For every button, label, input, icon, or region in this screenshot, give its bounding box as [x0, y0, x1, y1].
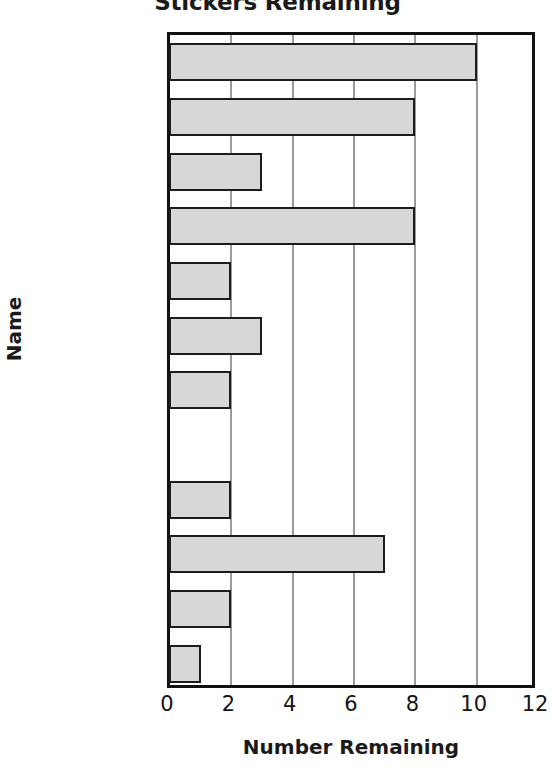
bar-amy[interactable] — [169, 317, 262, 355]
bar-chart: Stickers Remaining Name AnaAngelaAndyAnd… — [0, 0, 555, 772]
bars-layer — [170, 35, 532, 685]
bar-row — [170, 527, 532, 582]
bar-row — [170, 582, 532, 637]
bar-row — [170, 35, 532, 90]
x-tick-label-2: 2 — [198, 692, 258, 716]
x-tick-label-8: 8 — [382, 692, 442, 716]
bar-row — [170, 90, 532, 145]
bar-row — [170, 472, 532, 527]
bar-adam[interactable] — [169, 590, 231, 628]
x-tick-label-12: 12 — [505, 692, 555, 716]
bar-angela[interactable] — [169, 98, 415, 136]
bar-row — [170, 254, 532, 309]
bar-aaron[interactable] — [169, 645, 201, 683]
bar-row — [170, 363, 532, 418]
x-tick-label-0: 0 — [137, 692, 197, 716]
y-axis-title: Name — [2, 289, 26, 369]
bar-amber[interactable] — [169, 371, 231, 409]
x-tick-label-10: 10 — [444, 692, 504, 716]
x-tick-label-6: 6 — [321, 692, 381, 716]
bar-alicia[interactable] — [169, 535, 385, 573]
bar-row — [170, 308, 532, 363]
plot-area — [167, 32, 535, 688]
bar-allison[interactable] — [169, 481, 231, 519]
chart-title: Stickers Remaining — [0, 0, 555, 15]
bar-andrew[interactable] — [169, 207, 415, 245]
x-axis-title: Number Remaining — [167, 735, 535, 759]
x-tick-label-4: 4 — [260, 692, 320, 716]
bar-andrea[interactable] — [169, 262, 231, 300]
bar-row — [170, 636, 532, 691]
bar-ana[interactable] — [169, 43, 477, 81]
bar-row — [170, 199, 532, 254]
bar-row — [170, 144, 532, 199]
bar-andy[interactable] — [169, 153, 262, 191]
bar-row — [170, 418, 532, 473]
